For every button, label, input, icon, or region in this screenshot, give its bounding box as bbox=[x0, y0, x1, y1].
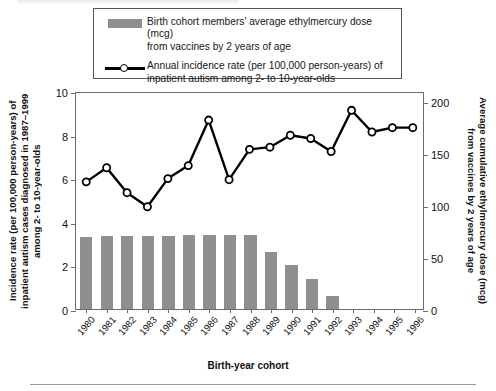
x-tick bbox=[209, 309, 210, 313]
data-point-1986 bbox=[205, 117, 212, 124]
y-left-tick-label: 0 bbox=[62, 305, 68, 317]
line-marker-swatch-icon bbox=[105, 63, 145, 73]
x-tick-label: 1993 bbox=[342, 314, 364, 337]
data-point-1983 bbox=[144, 203, 151, 210]
y-left-tick-label: 6 bbox=[62, 174, 68, 186]
x-tick-label: 1995 bbox=[383, 314, 405, 337]
y-right-tick-label: 50 bbox=[431, 253, 443, 265]
data-point-1992 bbox=[328, 148, 335, 155]
bar-1985 bbox=[183, 235, 195, 309]
x-tick bbox=[415, 309, 416, 313]
x-tick bbox=[271, 309, 272, 313]
x-tick bbox=[251, 309, 252, 313]
bar-1982 bbox=[121, 236, 133, 309]
x-tick bbox=[292, 309, 293, 313]
bar-1991 bbox=[306, 279, 318, 309]
legend-item-bar-series: Birth cohort members' average ethylmercu… bbox=[103, 16, 392, 53]
x-tick-label: 1991 bbox=[301, 314, 323, 337]
x-tick-label: 1994 bbox=[362, 314, 384, 337]
x-tick-label: 1992 bbox=[321, 314, 343, 337]
data-point-1989 bbox=[266, 144, 273, 151]
bar-1988 bbox=[244, 235, 256, 309]
legend-label-bar-series: Birth cohort members' average ethylmercu… bbox=[147, 16, 392, 53]
bar-1980 bbox=[80, 237, 92, 309]
x-tick bbox=[168, 309, 169, 313]
y-right-tick-label: 200 bbox=[431, 97, 449, 109]
cropped-caption-remnant-top bbox=[18, 0, 238, 5]
data-point-1994 bbox=[368, 128, 375, 135]
bar-1981 bbox=[101, 236, 113, 309]
y-axis-right-title-text: Average cumulative ethylmercury dose (mc… bbox=[465, 92, 489, 310]
data-point-1990 bbox=[287, 132, 294, 139]
x-tick-label: 1980 bbox=[75, 314, 97, 337]
y-right-tick bbox=[423, 311, 428, 312]
incidence-line-path bbox=[86, 110, 413, 206]
x-tick bbox=[148, 309, 149, 313]
x-tick-label: 1984 bbox=[157, 314, 179, 337]
x-tick-label: 1987 bbox=[219, 314, 241, 337]
y-left-tick-label: 4 bbox=[62, 218, 68, 230]
data-point-1991 bbox=[307, 135, 314, 142]
chart-legend: Birth cohort members' average ethylmercu… bbox=[93, 8, 402, 79]
x-tick bbox=[189, 309, 190, 313]
bottom-divider-rule bbox=[30, 384, 476, 385]
legend-label-line-series: Annual incidence rate (per 100,000 perso… bbox=[147, 60, 383, 85]
y-left-tick-label: 2 bbox=[62, 261, 68, 273]
bar-swatch-icon bbox=[108, 19, 142, 28]
y-right-tick bbox=[423, 103, 428, 104]
x-tick bbox=[394, 309, 395, 313]
x-tick-label: 1989 bbox=[260, 314, 282, 337]
bar-1986 bbox=[203, 235, 215, 309]
bar-1983 bbox=[142, 236, 154, 309]
y-left-tick bbox=[71, 311, 76, 312]
legend-line-line2: inpatient autism among 2- to 10-year-old… bbox=[147, 73, 383, 85]
x-tick-label: 1996 bbox=[403, 314, 425, 337]
y-left-tick bbox=[71, 180, 76, 181]
plot-area: 0246810050100150200 bbox=[75, 92, 424, 310]
legend-swatch-bar bbox=[103, 16, 147, 28]
figure-canvas: Birth cohort members' average ethylmercu… bbox=[0, 0, 496, 391]
y-right-tick bbox=[423, 207, 428, 208]
legend-bar-line2: from vaccines by 2 years of age bbox=[147, 41, 392, 53]
bar-1990 bbox=[285, 265, 297, 309]
bar-1992 bbox=[326, 296, 338, 309]
y-axis-left-title-text: Incidence rate (per 100,000 person-years… bbox=[7, 92, 43, 310]
x-axis-title: Birth-year cohort bbox=[0, 360, 496, 371]
y-right-tick-label: 0 bbox=[431, 305, 437, 317]
x-tick bbox=[374, 309, 375, 313]
y-left-tick bbox=[71, 137, 76, 138]
data-point-1996 bbox=[409, 124, 416, 131]
data-point-1988 bbox=[246, 146, 253, 153]
data-point-1993 bbox=[348, 107, 355, 114]
plot-inner: 0246810050100150200 bbox=[76, 93, 423, 309]
y-right-tick bbox=[423, 155, 428, 156]
y-left-tick bbox=[71, 224, 76, 225]
x-tick bbox=[86, 309, 87, 313]
data-point-1987 bbox=[226, 176, 233, 183]
y-right-tick-label: 100 bbox=[431, 201, 449, 213]
x-tick-label: 1985 bbox=[178, 314, 200, 337]
x-tick bbox=[107, 309, 108, 313]
y-right-tick-label: 150 bbox=[431, 149, 449, 161]
x-tick-label: 1988 bbox=[239, 314, 261, 337]
legend-swatch-line bbox=[103, 60, 147, 73]
y-axis-right-title: Average cumulative ethylmercury dose (mc… bbox=[462, 92, 492, 310]
x-tick-label: 1981 bbox=[95, 314, 117, 337]
y-left-tick bbox=[71, 267, 76, 268]
y-left-tick-label: 8 bbox=[62, 131, 68, 143]
y-right-tick bbox=[423, 259, 428, 260]
bar-1989 bbox=[265, 252, 277, 309]
data-point-1995 bbox=[389, 124, 396, 131]
x-tick bbox=[312, 309, 313, 313]
legend-item-line-series: Annual incidence rate (per 100,000 perso… bbox=[103, 60, 392, 85]
data-point-1985 bbox=[185, 162, 192, 169]
x-tick bbox=[333, 309, 334, 313]
bar-1987 bbox=[224, 235, 236, 309]
y-left-tick-label: 10 bbox=[56, 87, 68, 99]
data-point-1981 bbox=[103, 164, 110, 171]
data-point-1982 bbox=[123, 189, 130, 196]
bar-1984 bbox=[162, 236, 174, 309]
legend-bar-line1: Birth cohort members' average ethylmercu… bbox=[147, 16, 392, 41]
y-axis-left-title: Incidence rate (per 100,000 person-years… bbox=[10, 92, 40, 310]
x-tick-label: 1982 bbox=[116, 314, 138, 337]
